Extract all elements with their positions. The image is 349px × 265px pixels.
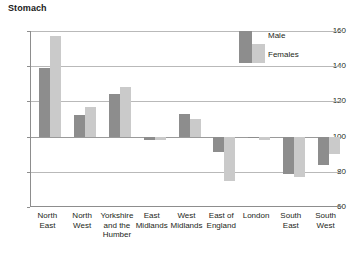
bar-females [190, 119, 201, 137]
bar-females [259, 137, 270, 141]
bar-females [294, 137, 305, 177]
bar-group [39, 31, 61, 206]
chart-legend: Male Females [239, 31, 339, 63]
x-axis-label-line: England [198, 221, 245, 231]
chart-title: Stomach [8, 3, 47, 13]
x-axis-label: SouthWest [302, 211, 349, 230]
y-tick-mark-60 [27, 207, 30, 208]
bar-females [329, 137, 340, 155]
x-axis-label-line: Humber [94, 230, 141, 240]
bar-male [283, 137, 294, 174]
bar-male [74, 115, 85, 136]
bar-group [74, 31, 96, 206]
bar-male [39, 68, 50, 137]
x-axis-label-line: South [302, 211, 349, 221]
bar-females [85, 107, 96, 137]
legend-label-male: Male [268, 31, 285, 40]
bar-group [144, 31, 166, 206]
bar-male [144, 137, 155, 141]
legend-swatch-female [252, 44, 265, 63]
bar-group [109, 31, 131, 206]
bar-male [248, 137, 259, 139]
bar-females [50, 36, 61, 136]
bar-male [213, 137, 224, 153]
bar-group [179, 31, 201, 206]
x-axis-label-line: West [302, 221, 349, 231]
bar-male [179, 114, 190, 137]
bar-females [155, 137, 166, 141]
bar-females [224, 137, 235, 181]
bar-group [213, 31, 235, 206]
legend-label-female: Females [268, 50, 299, 59]
bar-male [109, 94, 120, 136]
bar-females [120, 87, 131, 136]
bar-male [318, 137, 329, 165]
legend-swatch-male [239, 31, 252, 63]
